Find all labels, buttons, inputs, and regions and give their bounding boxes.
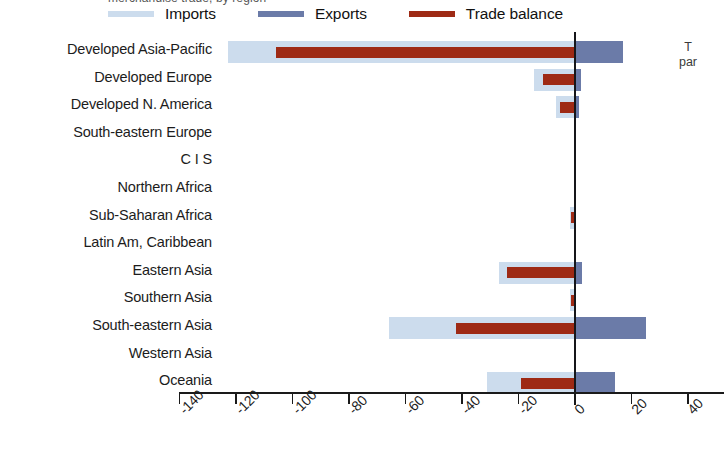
axis-tick-label-7: 0 bbox=[571, 401, 588, 418]
zero-reference-line bbox=[574, 32, 576, 405]
legend-gap bbox=[367, 14, 409, 15]
bar-exports-10 bbox=[575, 317, 646, 339]
axis-line bbox=[180, 392, 724, 394]
legend-label: Trade balance bbox=[466, 5, 563, 23]
plot-area: Developed Asia-PacificDeveloped EuropeDe… bbox=[0, 32, 711, 392]
legend-item-trade-balance[interactable]: Trade balance bbox=[409, 5, 563, 23]
bar-exports-12 bbox=[575, 372, 615, 394]
legend-item-exports[interactable]: Exports bbox=[258, 5, 367, 23]
value-axis: -140-120-100-80-60-40-2002040 bbox=[0, 392, 711, 450]
chart-legend: ImportsExportsTrade balance bbox=[108, 5, 563, 23]
legend-line-imports bbox=[108, 11, 154, 17]
bar-trade-balance-0 bbox=[276, 47, 575, 58]
legend-gap bbox=[216, 14, 258, 15]
bar-exports-8 bbox=[575, 262, 582, 284]
legend-label: Imports bbox=[165, 5, 216, 23]
legend-item-imports[interactable]: Imports bbox=[108, 5, 216, 23]
bar-trade-balance-1 bbox=[543, 74, 575, 85]
legend-line-exports bbox=[258, 11, 304, 17]
bar-trade-balance-12 bbox=[521, 378, 575, 389]
side-annotation-line1: T bbox=[659, 40, 717, 55]
bar-trade-balance-2 bbox=[560, 102, 575, 113]
bar-trade-balance-10 bbox=[456, 323, 575, 334]
bar-trade-balance-8 bbox=[507, 267, 575, 278]
legend-line-trade-balance bbox=[409, 11, 455, 17]
bar-exports-0 bbox=[575, 41, 623, 63]
side-annotation: T par bbox=[659, 40, 717, 70]
legend-label: Exports bbox=[315, 5, 367, 23]
side-annotation-line2: par bbox=[659, 55, 717, 70]
bars-canvas bbox=[0, 32, 711, 384]
bar-exports-1 bbox=[575, 69, 581, 91]
